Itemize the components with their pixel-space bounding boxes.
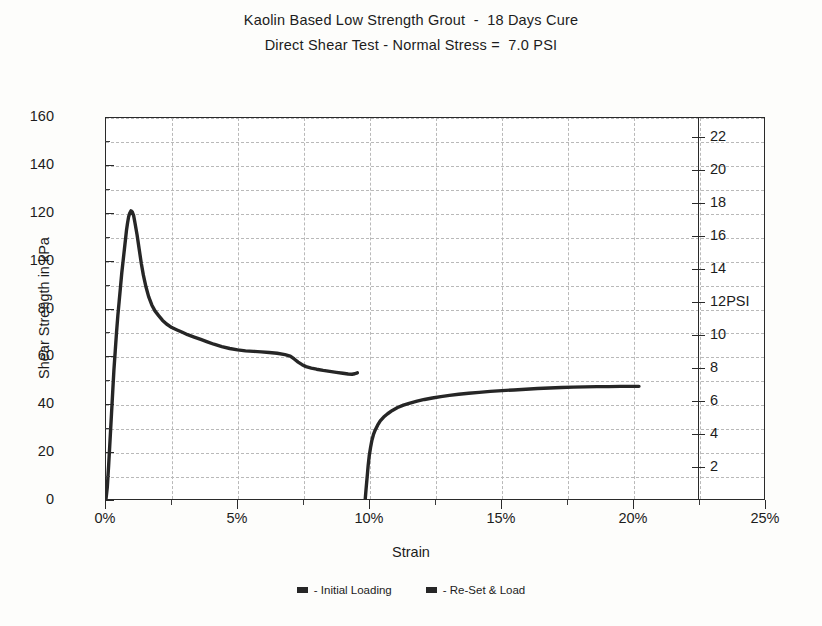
y-axis-tick <box>105 356 114 357</box>
x-axis-minor-tick <box>699 500 700 505</box>
chart-canvas: Kaolin Based Low Strength Grout - 18 Day… <box>0 0 822 626</box>
y-axis-tick <box>105 117 114 118</box>
y-axis-tick-label: 100 <box>0 252 54 268</box>
x-axis-tick-label: 0% <box>70 510 140 526</box>
y-axis-minor-tick <box>105 380 110 381</box>
y-axis-minor-tick <box>105 476 110 477</box>
chart-title-line-2: Direct Shear Test - Normal Stress = 7.0 … <box>0 33 822 58</box>
secondary-axis-tick <box>692 401 705 402</box>
x-axis-minor-tick <box>303 500 304 505</box>
legend-item-re-set-and-load: - Re-Set & Load <box>426 584 525 596</box>
y-axis-tick-label: 20 <box>0 443 54 459</box>
secondary-axis-tick <box>692 434 705 435</box>
y-axis-tick <box>105 404 114 405</box>
y-axis-tick <box>105 452 114 453</box>
legend-item-initial-loading: - Initial Loading <box>297 584 392 596</box>
secondary-axis-tick-label: 16 <box>710 227 726 243</box>
y-axis-minor-tick <box>105 189 110 190</box>
legend-label: - Initial Loading <box>314 584 392 596</box>
secondary-axis-tick-label: 14 <box>710 260 726 276</box>
secondary-axis-tick <box>692 269 705 270</box>
secondary-axis-tick-label: 18 <box>710 194 726 210</box>
x-axis-tick-label: 25% <box>730 510 800 526</box>
y-axis-tick-label: 120 <box>0 204 54 220</box>
x-axis-tick-label: 5% <box>202 510 272 526</box>
y-axis-minor-tick <box>105 332 110 333</box>
chart-title-line-1: Kaolin Based Low Strength Grout - 18 Day… <box>0 8 822 33</box>
legend-swatch-icon <box>297 587 308 593</box>
legend-swatch-icon <box>426 587 437 593</box>
y-axis-minor-tick <box>105 428 110 429</box>
plot-area <box>105 117 765 500</box>
secondary-axis-tick-label: 12PSI <box>710 293 750 309</box>
secondary-axis-tick-label: 10 <box>710 326 726 342</box>
x-axis-tick <box>105 500 106 509</box>
y-axis-tick <box>105 261 114 262</box>
secondary-axis-tick <box>692 302 705 303</box>
secondary-axis-tick <box>692 236 705 237</box>
x-axis-tick-label: 20% <box>598 510 668 526</box>
secondary-axis-tick-label: 22 <box>710 128 726 144</box>
x-axis-tick <box>501 500 502 509</box>
secondary-axis-tick-label: 6 <box>710 392 718 408</box>
y-axis-minor-tick <box>105 237 110 238</box>
x-axis-tick <box>633 500 634 509</box>
x-axis-tick <box>369 500 370 509</box>
y-axis-tick-label: 140 <box>0 156 54 172</box>
secondary-axis-tick-label: 2 <box>710 458 718 474</box>
secondary-axis-tick <box>692 335 705 336</box>
chart-title-block: Kaolin Based Low Strength Grout - 18 Day… <box>0 8 822 58</box>
x-axis-minor-tick <box>171 500 172 505</box>
x-axis-label: Strain <box>0 544 822 560</box>
x-axis-minor-tick <box>435 500 436 505</box>
y-axis-tick-label: 160 <box>0 108 54 124</box>
data-curves <box>106 118 764 499</box>
secondary-axis-tick <box>692 170 705 171</box>
y-axis-tick <box>105 213 114 214</box>
secondary-axis-tick <box>692 467 705 468</box>
chart-legend: - Initial Loading - Re-Set & Load <box>0 584 822 596</box>
y-axis-tick-label: 40 <box>0 395 54 411</box>
y-axis-tick <box>105 165 114 166</box>
x-axis-tick <box>237 500 238 509</box>
legend-label: - Re-Set & Load <box>443 584 525 596</box>
y-axis-tick <box>105 500 114 501</box>
x-axis-minor-tick <box>567 500 568 505</box>
series-line-re-set-and-load <box>365 386 639 499</box>
y-axis-minor-tick <box>105 285 110 286</box>
y-axis-tick-label: 80 <box>0 300 54 316</box>
secondary-axis-tick <box>692 368 705 369</box>
secondary-axis-tick-label: 8 <box>710 359 718 375</box>
x-axis-tick-label: 10% <box>334 510 404 526</box>
series-line-initial-loading <box>106 211 357 499</box>
y-axis-tick-label: 60 <box>0 347 54 363</box>
y-axis-tick <box>105 309 114 310</box>
y-axis-tick-label: 0 <box>0 491 54 507</box>
secondary-axis-tick <box>692 137 705 138</box>
x-axis-tick-label: 15% <box>466 510 536 526</box>
secondary-axis-tick-label: 4 <box>710 425 718 441</box>
secondary-axis-tick-label: 20 <box>710 161 726 177</box>
y-axis-minor-tick <box>105 141 110 142</box>
x-axis-tick <box>765 500 766 509</box>
secondary-axis-line <box>698 117 699 500</box>
secondary-axis-tick <box>692 203 705 204</box>
